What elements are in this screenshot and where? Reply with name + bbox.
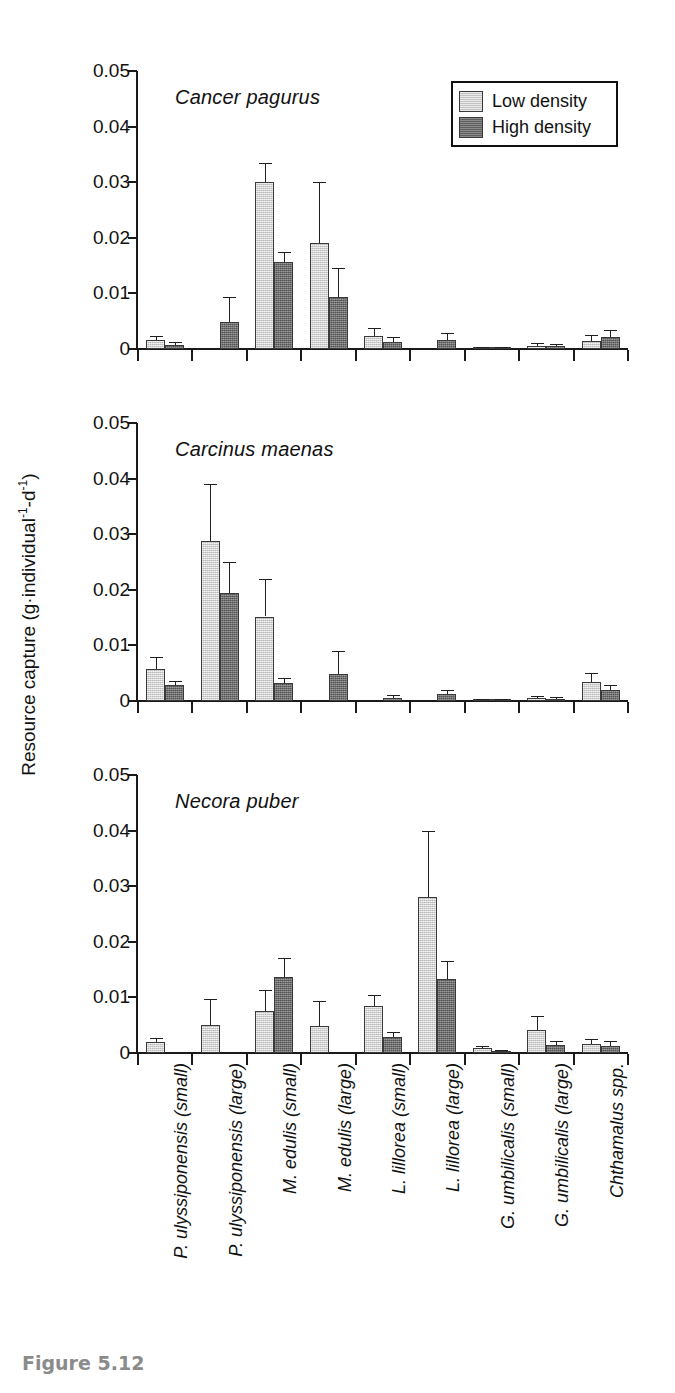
y-axis-tick-label: 0.05: [8, 413, 130, 432]
error-bar-cap: [476, 1046, 489, 1047]
error-bar-cap: [368, 328, 381, 329]
x-axis-label-0: P. ulyssiponensis (small): [171, 1063, 192, 1293]
error-bar-cap: [223, 297, 236, 298]
error-bar-cap: [550, 697, 563, 698]
error-bar-cap: [259, 990, 272, 991]
bar-high-density: [329, 297, 348, 349]
figure-5-12: Resource capture (g·individual-1-d-1) 00…: [0, 0, 675, 1393]
error-bar: [210, 999, 211, 1025]
error-bar-cap: [441, 333, 454, 334]
y-axis-tick-label: 0.03: [8, 876, 130, 895]
bar-high-density: [165, 685, 184, 701]
bar-low-density: [364, 336, 383, 349]
y-axis-tick-label: 0.05: [8, 765, 130, 784]
bar-high-density: [383, 342, 402, 349]
error-bar-cap: [585, 1039, 598, 1040]
plot-area: [137, 775, 627, 1053]
y-axis-tick-label: 0.03: [8, 524, 130, 543]
y-axis-tick-label: 0.02: [8, 228, 130, 247]
error-bar: [374, 328, 375, 336]
error-bar-cap: [585, 673, 598, 674]
x-axis-tick: [137, 702, 139, 713]
error-bar: [428, 831, 429, 897]
x-axis-tick: [573, 702, 575, 713]
error-bar: [537, 1016, 538, 1029]
y-axis-tick-label: 0.01: [8, 987, 130, 1006]
error-bar-cap: [441, 690, 454, 691]
x-axis-label-2: M. edulis (small): [280, 1063, 301, 1293]
x-axis-tick: [300, 350, 302, 361]
bar-high-density: [220, 593, 239, 701]
bar-high-density: [601, 690, 620, 701]
figure-caption: Figure 5.12: [22, 1352, 144, 1374]
bar-low-density: [146, 669, 165, 701]
error-bar-cap: [259, 163, 272, 164]
y-axis-tick-label: 0.04: [8, 821, 130, 840]
x-axis-tick: [573, 350, 575, 361]
x-axis-tick: [355, 702, 357, 713]
low-density-swatch: [459, 91, 483, 112]
error-bar-cap: [550, 1041, 563, 1042]
error-bar-cap: [531, 343, 544, 344]
error-bar: [319, 1001, 320, 1026]
bar-high-density: [165, 345, 184, 349]
y-axis-tick-label: 0: [8, 691, 130, 710]
bar-high-density: [546, 346, 565, 349]
error-bar: [610, 330, 611, 337]
error-bar-cap: [531, 1016, 544, 1017]
error-bar-cap: [368, 995, 381, 996]
bar-high-density: [274, 683, 293, 701]
error-bar: [284, 252, 285, 262]
legend-item-low-density: Low density: [459, 88, 610, 114]
y-axis-tick-label: 0.01: [8, 283, 130, 302]
x-axis-tick: [518, 702, 520, 713]
bar-low-density: [146, 1042, 165, 1053]
error-bar-cap: [332, 268, 345, 269]
error-bar: [210, 484, 211, 541]
error-bar-cap: [604, 1041, 617, 1042]
error-bar-cap: [204, 999, 217, 1000]
error-bar-cap: [387, 695, 400, 696]
bar-high-density: [329, 674, 348, 701]
error-bar: [591, 673, 592, 682]
y-axis-tick-label: 0.01: [8, 635, 130, 654]
error-bar-cap: [531, 696, 544, 697]
x-axis-tick: [518, 350, 520, 361]
error-bar-cap: [495, 1050, 508, 1051]
x-axis-tick: [409, 350, 411, 361]
bar-low-density: [255, 1011, 274, 1053]
bar-low-density: [527, 1030, 546, 1053]
bar-low-density: [146, 340, 165, 349]
bar-low-density: [201, 541, 220, 701]
legend-label-low-density: Low density: [492, 92, 587, 110]
y-axis-tick-label: 0.04: [8, 469, 130, 488]
x-axis-tick: [191, 702, 193, 713]
legend-item-high-density: High density: [459, 114, 610, 140]
x-axis-tick: [627, 702, 629, 713]
error-bar: [229, 297, 230, 322]
error-bar-cap: [604, 330, 617, 331]
error-bar-cap: [278, 678, 291, 679]
error-bar-cap: [550, 344, 563, 345]
x-axis-tick: [355, 350, 357, 361]
error-bar-cap: [604, 685, 617, 686]
bar-low-density: [582, 1044, 601, 1053]
bar-low-density: [582, 682, 601, 701]
error-bar-cap: [476, 347, 489, 348]
y-axis-tick-label: 0: [8, 339, 130, 358]
error-bar-cap: [313, 1001, 326, 1002]
bar-high-density: [601, 1046, 620, 1053]
error-bar: [265, 163, 266, 182]
bar-high-density: [492, 1051, 511, 1053]
error-bar: [447, 333, 448, 340]
error-bar-cap: [150, 1038, 163, 1039]
error-bar-cap: [223, 562, 236, 563]
bar-low-density: [310, 243, 329, 349]
error-bar: [338, 268, 339, 297]
x-axis-label-1: P. ulyssiponensis (large): [226, 1063, 247, 1293]
error-bar-cap: [313, 182, 326, 183]
x-axis-label-8: Chthamalus spp.: [607, 1063, 628, 1293]
error-bar-cap: [495, 699, 508, 700]
legend: Low density High density: [451, 81, 618, 147]
error-bar: [319, 182, 320, 243]
